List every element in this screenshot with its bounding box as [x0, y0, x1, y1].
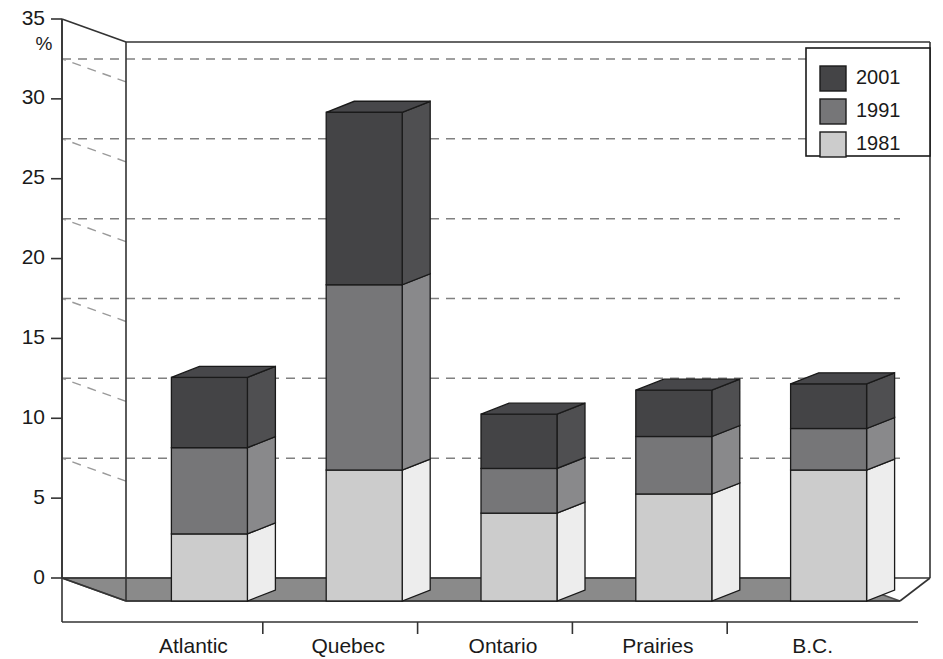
- y-axis-unit-label: %: [36, 33, 53, 54]
- bar-segment-front: [171, 534, 247, 601]
- bar-segment-front: [636, 390, 712, 436]
- gridline-depth: [62, 299, 126, 322]
- gridline-depth: [62, 59, 126, 82]
- category-labels-group: AtlanticQuebecOntarioPrairiesB.C.: [159, 634, 833, 657]
- legend-swatch-1991[interactable]: [820, 99, 846, 124]
- bar-segment-front: [791, 470, 867, 601]
- bars-group: [171, 101, 894, 601]
- bar-side-face: [557, 502, 585, 601]
- bar-side-face: [247, 366, 275, 447]
- bar-segment-front: [481, 468, 557, 513]
- gridline-depth: [62, 378, 126, 401]
- x-axis-category-label: Atlantic: [159, 634, 228, 657]
- floor-right-diagonal: [900, 578, 930, 601]
- stacked-bar-chart-3d: 05101520253035% AtlanticQuebecOntarioPra…: [0, 0, 943, 659]
- y-axis-tick-label: 30: [22, 85, 45, 108]
- bar-side-face: [402, 274, 430, 470]
- y-axis-tick-label: 35: [22, 6, 45, 29]
- bar-segment-front: [171, 377, 247, 447]
- legend-label-1991: 1991: [856, 99, 901, 121]
- x-axis-category-label: Quebec: [311, 634, 385, 657]
- y-axis-tick-label: 10: [22, 405, 45, 428]
- bar-side-face: [712, 425, 740, 493]
- y-axis-tick-label: 20: [22, 245, 45, 268]
- x-axis-category-label: Ontario: [469, 634, 538, 657]
- gridline-depth: [62, 458, 126, 481]
- legend-swatch-2001[interactable]: [820, 66, 846, 91]
- axis-top-left-connector: [62, 19, 126, 42]
- gridline-depth: [62, 219, 126, 242]
- chart-legend[interactable]: 200119911981: [806, 48, 930, 157]
- y-axis-tick-label: 5: [33, 485, 45, 508]
- y-axis-tick-label: 15: [22, 325, 45, 348]
- x-axis-category-label: Prairies: [622, 634, 693, 657]
- bar-segment-front: [326, 112, 402, 284]
- bar-segment-front: [636, 494, 712, 601]
- bar-side-face: [402, 459, 430, 601]
- bar-side-face: [247, 523, 275, 601]
- bar-segment-front: [481, 414, 557, 468]
- y-axis-tick-label: 25: [22, 165, 45, 188]
- x-axis-category-label: B.C.: [792, 634, 833, 657]
- bar-side-face: [247, 437, 275, 534]
- bar-segment-front: [326, 285, 402, 470]
- legend-label-1981: 1981: [856, 132, 901, 154]
- legend-swatch-1981[interactable]: [820, 132, 846, 157]
- gridline-depth: [62, 139, 126, 162]
- bar-segment-front: [791, 429, 867, 471]
- axis-labels-group: 05101520253035%: [22, 6, 62, 588]
- legend-label-2001: 2001: [856, 66, 901, 88]
- bar-side-face: [402, 101, 430, 284]
- bar-side-face: [712, 483, 740, 601]
- y-axis-tick-label: 0: [33, 565, 45, 588]
- bar-segment-front: [326, 470, 402, 601]
- chart-container: 05101520253035% AtlanticQuebecOntarioPra…: [0, 0, 943, 659]
- bar-segment-front: [481, 513, 557, 601]
- bar-segment-front: [791, 384, 867, 429]
- bar-side-face: [867, 459, 895, 601]
- bar-segment-front: [636, 436, 712, 493]
- bar-segment-front: [171, 448, 247, 534]
